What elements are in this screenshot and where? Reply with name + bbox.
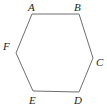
vertex-label-c: C bbox=[96, 57, 103, 68]
hexagon-outline bbox=[16, 14, 93, 92]
hexagon-figure: A B C D E F bbox=[0, 0, 107, 111]
vertex-label-a: A bbox=[28, 2, 35, 13]
vertex-label-f: F bbox=[3, 41, 10, 52]
vertex-label-b: B bbox=[74, 2, 81, 13]
vertex-label-e: E bbox=[29, 95, 36, 106]
vertex-label-d: D bbox=[74, 95, 82, 106]
hexagon-shape bbox=[0, 0, 107, 111]
